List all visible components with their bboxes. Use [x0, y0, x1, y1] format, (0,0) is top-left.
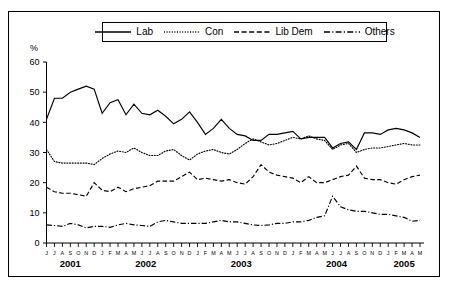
x-axis-month-label: S	[355, 250, 359, 256]
x-axis-month-label: M	[322, 250, 327, 256]
x-axis-month-label: F	[395, 250, 399, 256]
series-line-con	[47, 136, 421, 165]
legend-swatch-others	[323, 27, 361, 37]
x-axis-month-label: N	[370, 250, 374, 256]
legend-label-others: Others	[365, 27, 395, 37]
legend-item-lib-dem: Lib Dem	[233, 27, 312, 37]
chart-root: %0102030405060 JJASONDJFMAMJJASONDJFMAMJ…	[0, 0, 450, 288]
x-axis-year-label: 2002	[135, 258, 156, 269]
x-axis-month-label: M	[402, 250, 407, 256]
y-axis-tick-label: 20	[29, 178, 39, 188]
legend-label-lib-dem: Lib Dem	[275, 27, 312, 37]
x-axis-month-label: J	[45, 250, 48, 256]
x-axis-month-label: D	[378, 250, 382, 256]
chart-legend: Lab Con Lib Dem Others	[102, 22, 387, 42]
legend-item-con: Con	[163, 27, 223, 37]
x-axis-month-label: A	[61, 250, 65, 256]
legend-swatch-lab	[94, 27, 132, 37]
y-axis-tick-label: 0	[34, 238, 39, 248]
x-axis-month-label: M	[418, 250, 423, 256]
y-axis-tick-label: 10	[29, 208, 39, 218]
x-axis-month-label: M	[116, 250, 121, 256]
axes-group: %0102030405060	[29, 43, 424, 248]
chart-canvas: %0102030405060 JJASONDJFMAMJJASONDJFMAMJ…	[0, 0, 450, 288]
x-axis-month-label: N	[275, 250, 279, 256]
x-axis-year-label: 2004	[326, 258, 348, 269]
x-axis-month-label: O	[76, 250, 80, 256]
x-axis-month-label: F	[204, 250, 208, 256]
legend-item-others: Others	[323, 27, 395, 37]
x-axis-month-label: A	[315, 250, 319, 256]
x-axis-month-label: A	[220, 250, 224, 256]
legend-label-lab: Lab	[136, 27, 153, 37]
x-axis-month-label: M	[132, 250, 137, 256]
x-axis-labels-group: JJASONDJFMAMJJASONDJFMAMJJASONDJFMAMJJAS…	[45, 243, 423, 269]
x-axis-month-label: J	[53, 250, 56, 256]
series-line-lib-dem	[47, 165, 421, 197]
x-axis-month-label: M	[306, 250, 311, 256]
y-axis-unit-label: %	[30, 43, 38, 53]
x-axis-month-label: S	[69, 250, 73, 256]
x-axis-month-label: N	[84, 250, 88, 256]
x-axis-month-label: D	[188, 250, 192, 256]
x-axis-month-label: J	[196, 250, 199, 256]
x-axis-month-label: D	[92, 250, 96, 256]
series-line-others	[47, 196, 421, 228]
y-axis-tick-label: 50	[29, 87, 39, 97]
x-axis-month-label: A	[410, 250, 414, 256]
x-axis-month-label: F	[299, 250, 303, 256]
x-axis-month-label: M	[211, 250, 216, 256]
x-axis-month-label: D	[283, 250, 287, 256]
y-axis-tick-label: 40	[29, 118, 39, 128]
x-axis-month-label: O	[267, 250, 271, 256]
x-axis-year-label: 2001	[60, 258, 82, 269]
y-axis-tick-label: 60	[29, 57, 39, 67]
x-axis-month-label: J	[101, 250, 104, 256]
x-axis-month-label: M	[227, 250, 232, 256]
x-axis-month-label: A	[347, 250, 351, 256]
x-axis-year-label: 2003	[231, 258, 252, 269]
x-axis-month-label: O	[362, 250, 366, 256]
y-axis-tick-label: 30	[29, 148, 39, 158]
legend-swatch-lib-dem	[233, 27, 271, 37]
x-axis-month-label: J	[387, 250, 390, 256]
legend-swatch-con	[163, 27, 201, 37]
x-axis-month-label: A	[124, 250, 128, 256]
legend-label-con: Con	[205, 27, 223, 37]
x-axis-month-label: J	[148, 250, 151, 256]
x-axis-month-label: J	[339, 250, 342, 256]
x-axis-month-label: J	[331, 250, 334, 256]
x-axis-month-label: S	[164, 250, 168, 256]
x-axis-month-label: J	[141, 250, 144, 256]
x-axis-month-label: A	[251, 250, 255, 256]
x-axis-month-label: J	[236, 250, 239, 256]
x-axis-month-label: F	[108, 250, 112, 256]
x-axis-month-label: A	[156, 250, 160, 256]
x-axis-month-label: J	[244, 250, 247, 256]
x-axis-month-label: S	[259, 250, 263, 256]
x-axis-year-label: 2005	[394, 258, 416, 269]
x-axis-month-label: J	[291, 250, 294, 256]
x-axis-month-label: O	[172, 250, 176, 256]
x-axis-month-label: N	[180, 250, 184, 256]
series-line-lab	[47, 86, 421, 149]
legend-item-lab: Lab	[94, 27, 153, 37]
series-group	[47, 86, 421, 228]
